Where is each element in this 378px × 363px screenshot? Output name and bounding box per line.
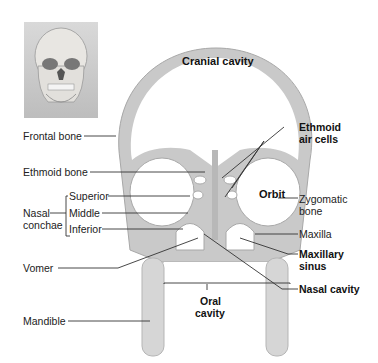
- frontal-bone-label: Frontal bone: [23, 130, 82, 142]
- zygomatic-bone-label-line2: bone: [299, 205, 322, 217]
- zygomatic-bone-label-line1: Zygomatic: [299, 193, 347, 205]
- oral-cavity-label-line1: Oral: [200, 295, 221, 307]
- ethmoid-air-cells-label-line1: Ethmoid: [299, 121, 341, 133]
- oral-cavity-label-line2: cavity: [195, 307, 225, 319]
- right-mandible: [266, 258, 288, 356]
- nasal-septum: [212, 150, 218, 240]
- maxilla-label: Maxilla: [299, 228, 332, 240]
- skull-coronal-section-diagram: Cranial cavity Orbit Oral cavity Frontal…: [0, 0, 378, 363]
- orbit-label: Orbit: [259, 188, 285, 200]
- cranial-cavity-label: Cranial cavity: [182, 55, 254, 67]
- mandible-label: Mandible: [23, 315, 66, 327]
- inferior-concha-label: Inferior: [69, 223, 102, 235]
- left-mandible: [142, 258, 164, 356]
- maxillary-sinus-label-line2: sinus: [299, 260, 326, 272]
- nasal-cavity-label: Nasal cavity: [299, 283, 360, 295]
- left-orbit: [130, 158, 194, 226]
- middle-concha-label: Middle: [69, 207, 100, 219]
- maxillary-sinus-label-line1: Maxillary: [299, 248, 344, 260]
- ethmoid-air-cells-label-line2: air cells: [299, 133, 338, 145]
- vomer-label: Vomer: [23, 262, 53, 274]
- nasal-conchae-label-line2: conchae: [23, 219, 63, 231]
- superior-concha-label: Superior: [69, 190, 109, 202]
- ethmoid-bone-label: Ethmoid bone: [23, 166, 88, 178]
- nasal-conchae-label-line1: Nasal: [23, 207, 50, 219]
